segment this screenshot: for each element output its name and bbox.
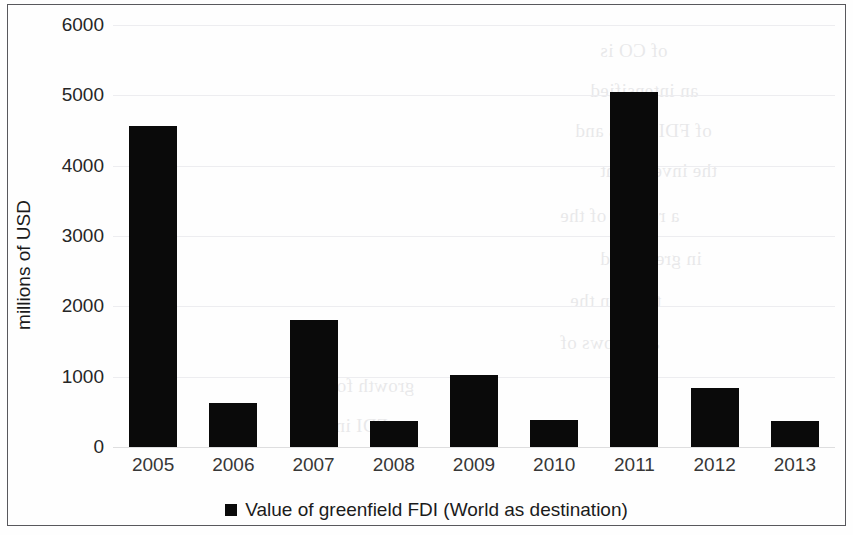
y-axis-tick: 3000 — [44, 226, 104, 245]
y-axis-tick: 5000 — [44, 85, 104, 104]
bar — [209, 403, 257, 447]
bar — [691, 388, 739, 447]
x-axis-tick: 2008 — [354, 455, 434, 474]
bar — [610, 92, 658, 447]
x-axis-tick: 2009 — [434, 455, 514, 474]
y-axis-tick: 1000 — [44, 367, 104, 386]
x-axis-tick: 2005 — [113, 455, 193, 474]
x-axis-tick-labels: 200520062007200820092010201120122013 — [113, 455, 835, 483]
x-axis-tick: 2011 — [594, 455, 674, 474]
y-axis-title-label: millions of USD — [13, 200, 35, 330]
legend-entry-label: Value of greenfield FDI (World as destin… — [245, 499, 628, 521]
bar — [450, 375, 498, 447]
chart-screenshot: of CO is an intensified of FDI flows and… — [0, 0, 853, 535]
bar — [290, 320, 338, 447]
chart-legend: Value of greenfield FDI (World as destin… — [0, 499, 853, 521]
chart-plot-area: millions of USD 6000 5000 4000 3000 2000… — [0, 0, 853, 535]
y-axis-tick: 4000 — [44, 156, 104, 175]
bar — [129, 126, 177, 447]
y-axis-title: millions of USD — [10, 150, 38, 380]
x-axis-tick: 2012 — [675, 455, 755, 474]
x-axis-tick: 2013 — [755, 455, 835, 474]
y-axis-tick: 2000 — [44, 296, 104, 315]
x-axis-tick: 2006 — [193, 455, 273, 474]
bar — [771, 421, 819, 447]
square-marker-icon — [225, 504, 237, 516]
x-axis-tick: 2007 — [273, 455, 353, 474]
y-axis-tick: 0 — [44, 437, 104, 456]
x-axis-tick: 2010 — [514, 455, 594, 474]
bar — [370, 421, 418, 447]
y-axis-tick: 6000 — [44, 15, 104, 34]
y-axis-tick-labels: 6000 5000 4000 3000 2000 1000 0 — [36, 0, 104, 535]
bar — [530, 420, 578, 447]
